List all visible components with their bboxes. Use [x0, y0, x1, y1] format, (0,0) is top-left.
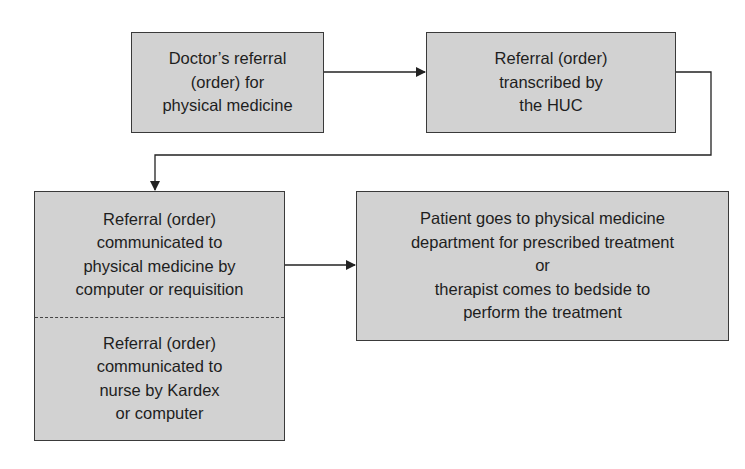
node-text: or computer	[115, 402, 203, 426]
node-text: Doctor’s referral	[169, 47, 287, 71]
node-text: (order) for	[191, 71, 264, 95]
node-doctor-referral: Doctor’s referral (order) for physical m…	[131, 32, 324, 133]
node-text: communicated to	[97, 231, 223, 255]
node-text: transcribed by	[499, 71, 603, 95]
node-treatment: Patient goes to physical medicine depart…	[356, 191, 729, 341]
node-text: therapist comes to bedside to	[435, 278, 651, 302]
node-text: the HUC	[519, 94, 582, 118]
node-text: communicated to	[97, 355, 223, 379]
node-transcribed: Referral (order) transcribed by the HUC	[426, 32, 676, 133]
node-text: Referral (order)	[495, 47, 608, 71]
node-text: physical medicine	[162, 94, 292, 118]
section-nurse: Referral (order) communicated to nurse b…	[35, 317, 284, 439]
section-physical-medicine: Referral (order) communicated to physica…	[35, 192, 284, 317]
node-text: Referral (order)	[103, 332, 216, 356]
node-text: Referral (order)	[103, 208, 216, 232]
node-text: nurse by Kardex	[99, 379, 219, 403]
node-text: or	[535, 254, 550, 278]
node-text: physical medicine by	[83, 255, 235, 279]
node-communicated: Referral (order) communicated to physica…	[34, 191, 285, 441]
node-text: computer or requisition	[76, 278, 244, 302]
node-text: Patient goes to physical medicine	[420, 207, 665, 231]
node-text: department for prescribed treatment	[411, 231, 674, 255]
node-text: perform the treatment	[463, 301, 622, 325]
